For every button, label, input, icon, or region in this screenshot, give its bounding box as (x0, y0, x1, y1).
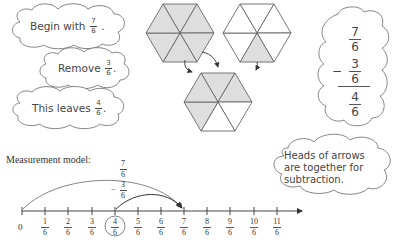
note-line-1: Heads of arrows (284, 150, 384, 162)
equation-result-line (338, 86, 370, 87)
step-remove-period: . (113, 62, 116, 74)
step-leaves-text: This leaves (32, 102, 91, 114)
step-begin: Begin with 76 . (30, 18, 105, 35)
step-begin-period: . (101, 20, 104, 32)
tick-label-1-6: 16 (37, 218, 53, 237)
note-line-3: subtraction. (284, 174, 384, 186)
measurement-title: Measurement model: (6, 154, 91, 165)
arrow-hex2-down (256, 62, 257, 70)
tick-label-10-6: 106 (246, 218, 262, 237)
tick-label-4-6: 46 (107, 218, 123, 237)
fraction-four-sixths: 46 (95, 100, 102, 117)
tick-label-8-6: 86 (199, 218, 215, 237)
step-begin-text: Begin with (30, 20, 86, 32)
equation-minus-sign: − (332, 64, 342, 78)
tick-label-2-6: 26 (60, 218, 76, 237)
note-text: Heads of arrows are together for subtrac… (284, 150, 384, 186)
fraction-three-sixths: 36 (105, 60, 112, 77)
step-remove-text: Remove (58, 62, 101, 74)
equation-minuend: 76 (345, 26, 365, 53)
step-leaves-period: . (103, 102, 106, 114)
tick-label-11-6: 116 (269, 218, 285, 237)
step-leaves: This leaves 46. (32, 100, 106, 117)
arc-long-label: 76 (118, 160, 128, 179)
arrow-hex1-to-result-b (202, 52, 218, 67)
tick-label-6-6: 66 (153, 218, 169, 237)
tick-label-9-6: 96 (222, 218, 238, 237)
arc-short-label: 36 (118, 181, 128, 200)
tick-label-3-6: 36 (84, 218, 100, 237)
arc-short-sign: − (111, 186, 116, 194)
fraction-seven-sixths: 76 (90, 18, 97, 35)
equation-subtrahend: 36 (345, 58, 365, 85)
hexagon-whole (146, 4, 214, 62)
hexagon-one-sixth (223, 4, 291, 62)
equation-result: 46 (345, 91, 365, 118)
note-line-2: are together for (284, 162, 384, 174)
hexagon-result (184, 73, 252, 131)
step-remove: Remove 36. (58, 60, 116, 77)
diagram-canvas (0, 0, 399, 249)
tick-label-7-6: 76 (176, 218, 192, 237)
tick-label-zero: 0 (18, 222, 23, 232)
tick-label-5-6: 56 (130, 218, 146, 237)
